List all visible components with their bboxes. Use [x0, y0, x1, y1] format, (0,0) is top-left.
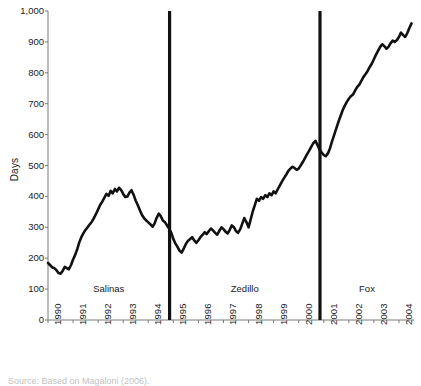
y-tick-label: 800: [4, 68, 44, 78]
figure-caption: Source: Based on Magaloni (2006).: [8, 376, 150, 386]
x-tick-label: 1995: [177, 303, 188, 325]
y-tick-label: 200: [4, 253, 44, 263]
y-tick-label: 900: [4, 37, 44, 47]
x-tick-label: 2000: [303, 303, 314, 325]
y-tick-label: 400: [4, 191, 44, 201]
x-tick-label: 1996: [202, 303, 213, 325]
y-tick-label: 700: [4, 99, 44, 109]
x-tick-label: 2004: [403, 303, 414, 325]
x-tick-label: 1997: [227, 303, 238, 325]
y-tick-label: 0: [4, 315, 44, 325]
series-line-days: [48, 23, 411, 273]
x-tick-label: 1994: [152, 303, 163, 325]
period-label-salinas: Salinas: [69, 283, 149, 294]
x-tick-label: 1990: [52, 303, 63, 325]
x-tick-label: 1999: [278, 303, 289, 325]
x-tick-label: 2003: [378, 303, 389, 325]
y-axis-tick-labels: 01002003004005006007008009001,000: [0, 0, 44, 385]
x-tick-label: 2001: [328, 303, 339, 325]
x-tick-label: 1998: [253, 303, 264, 325]
y-tick-label: 100: [4, 284, 44, 294]
axes: [48, 11, 414, 320]
x-tick-label: 1993: [127, 303, 138, 325]
y-tick-label: 1,000: [4, 6, 44, 16]
x-tick-label: 2002: [353, 303, 364, 325]
x-tick-label: 1992: [102, 303, 113, 325]
period-divider-lines: [170, 11, 320, 320]
period-label-fox: Fox: [327, 283, 407, 294]
y-tick-label: 600: [4, 130, 44, 140]
y-tick-label: 500: [4, 161, 44, 171]
period-label-zedillo: Zedillo: [205, 283, 285, 294]
x-tick-label: 1991: [77, 303, 88, 325]
y-tick-label: 300: [4, 222, 44, 232]
